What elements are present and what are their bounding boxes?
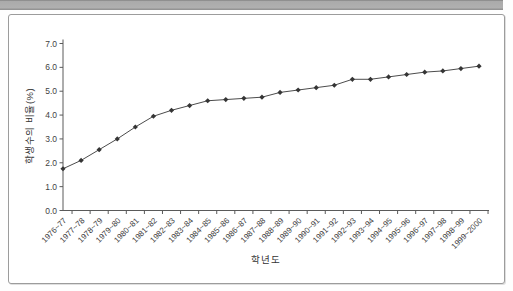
data-point-marker [314, 85, 319, 90]
data-point-marker [404, 72, 409, 77]
data-point-marker [476, 64, 481, 69]
y-tick-label: 2.0 [45, 158, 57, 168]
data-point-marker [151, 114, 156, 119]
data-point-marker [187, 103, 192, 108]
data-point-marker [440, 68, 445, 73]
y-tick-label: 6.0 [45, 62, 57, 72]
data-point-marker [332, 83, 337, 88]
y-tick-label: 1.0 [45, 182, 57, 192]
chart-panel: 0.01.02.03.04.05.06.07.01976~771977~7819… [8, 14, 505, 284]
data-point-marker [350, 77, 355, 82]
data-point-marker [368, 77, 373, 82]
x-axis-title: 학년도 [206, 252, 326, 266]
data-point-marker [97, 147, 102, 152]
data-point-marker [458, 66, 463, 71]
data-point-marker [133, 124, 138, 129]
data-point-marker [422, 70, 427, 75]
data-point-marker [259, 95, 264, 100]
data-point-marker [223, 97, 228, 102]
data-point-marker [60, 166, 65, 171]
data-point-marker [78, 158, 83, 163]
page-header-bar [0, 0, 503, 10]
y-axis-title: 학생수의 비율(%) [22, 56, 36, 196]
data-point-marker [115, 136, 120, 141]
data-point-marker [277, 90, 282, 95]
data-point-marker [386, 74, 391, 79]
y-tick-label: 3.0 [45, 134, 57, 144]
data-line [63, 66, 479, 169]
y-tick-label: 0.0 [45, 206, 57, 216]
y-tick-label: 5.0 [45, 86, 57, 96]
data-point-marker [241, 96, 246, 101]
line-chart: 0.01.02.03.04.05.06.07.01976~771977~7819… [9, 15, 504, 283]
y-tick-label: 7.0 [45, 39, 57, 49]
data-point-marker [205, 98, 210, 103]
data-point-marker [169, 108, 174, 113]
data-point-marker [296, 87, 301, 92]
y-tick-label: 4.0 [45, 110, 57, 120]
